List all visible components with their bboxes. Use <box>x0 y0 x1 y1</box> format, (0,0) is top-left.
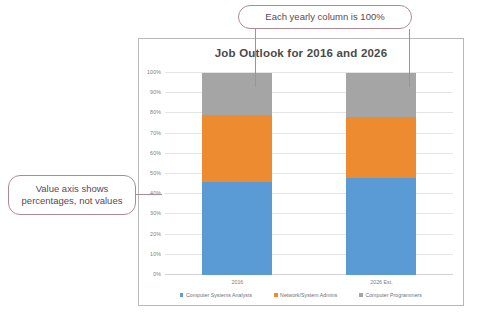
chart-title: Job Outlook for 2016 and 2026 <box>139 47 463 59</box>
callout-each-column-100-percent: Each yearly column is 100% <box>238 5 412 29</box>
callout-left-line-2: percentages, not values <box>22 195 123 207</box>
legend-item[interactable]: Computer Programmers <box>359 292 422 298</box>
bar-segment[interactable] <box>346 73 416 117</box>
y-axis-tick-label: 20% <box>150 231 161 237</box>
bar-segment[interactable] <box>202 182 272 275</box>
x-axis-category-label: 2026 Est. <box>346 279 416 285</box>
bar-stack <box>346 73 416 275</box>
legend-swatch-icon <box>274 293 278 297</box>
y-axis-tick-label: 30% <box>150 210 161 216</box>
bar-segment[interactable] <box>202 73 272 115</box>
x-axis-category-label: 2016 <box>202 279 272 285</box>
bar-segment[interactable] <box>202 115 272 182</box>
callout-top-leader-right <box>409 29 410 87</box>
y-axis-tick-label: 70% <box>150 130 161 136</box>
bar-segment[interactable] <box>346 117 416 178</box>
chart-container: Job Outlook for 2016 and 2026 0%10%20%30… <box>138 38 464 306</box>
y-axis-tick-label: 80% <box>150 109 161 115</box>
legend-item[interactable]: Computer Systems Analysts <box>180 292 252 298</box>
legend-swatch-icon <box>359 293 363 297</box>
y-axis-tick-label: 0% <box>153 271 161 277</box>
y-axis-tick-label: 50% <box>150 170 161 176</box>
bar-segment[interactable] <box>346 178 416 275</box>
y-axis-tick-label: 100% <box>147 69 161 75</box>
y-axis-tick-label: 90% <box>150 89 161 95</box>
y-axis-tick-label: 60% <box>150 150 161 156</box>
legend-label: Computer Programmers <box>365 292 422 298</box>
callout-top-leader-left <box>255 29 256 87</box>
y-axis-tick-label: 10% <box>150 251 161 257</box>
legend-label: Computer Systems Analysts <box>186 292 252 298</box>
bar-group-1[interactable]: 2026 Est. <box>346 73 416 275</box>
bar-stack <box>202 73 272 275</box>
chart-legend: Computer Systems AnalystsNetwork/System … <box>139 292 463 298</box>
legend-item[interactable]: Network/System Admins <box>274 292 337 298</box>
callout-value-axis-percentages: Value axis shows percentages, not values <box>8 175 136 215</box>
bar-group-0[interactable]: 2016 <box>202 73 272 275</box>
callout-left-leader <box>136 194 162 195</box>
legend-label: Network/System Admins <box>280 292 337 298</box>
legend-swatch-icon <box>180 293 184 297</box>
callout-left-line-1: Value axis shows <box>22 183 123 195</box>
plot-area: 0%10%20%30%40%50%60%70%80%90%100%2016202… <box>165 73 453 275</box>
